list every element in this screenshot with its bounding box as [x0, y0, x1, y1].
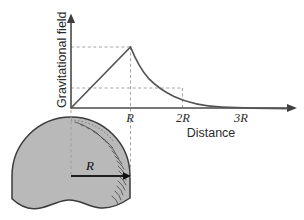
planet-radius-label: R — [85, 158, 94, 173]
x-tick-label-2R: 2R — [176, 111, 190, 125]
x-tick-label-R: R — [125, 111, 134, 125]
curve-inside-sphere — [71, 47, 131, 108]
curve-outside-sphere — [131, 47, 289, 109]
gravitational-field-figure: R — [0, 0, 304, 220]
y-axis-label: Gravitational field — [55, 11, 69, 108]
field-curve-group — [71, 47, 288, 109]
x-tick-label-3R: 3R — [233, 111, 248, 125]
figure-svg: R — [0, 0, 304, 220]
axes-group — [67, 14, 297, 113]
planet-group: R — [12, 117, 131, 209]
x-axis-label: Distance — [187, 126, 236, 140]
